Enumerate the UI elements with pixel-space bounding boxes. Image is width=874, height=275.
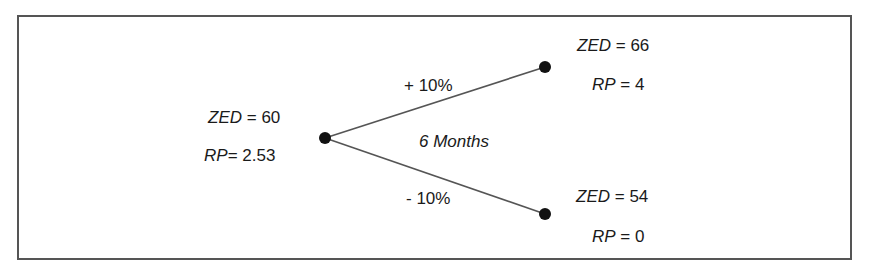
root-rp-value: 2.53 [242, 146, 275, 165]
down-rp-value: 0 [635, 227, 644, 246]
root-node [319, 132, 331, 144]
root-rp-label: RP= 2.53 [204, 147, 275, 164]
down-rp-label: RP = 0 [592, 228, 644, 245]
up-node [539, 61, 551, 73]
up-rp-label: RP = 4 [592, 76, 644, 93]
down-zed-name: ZED [576, 187, 610, 206]
up-rp-value: 4 [635, 75, 644, 94]
up-zed-name: ZED [577, 36, 611, 55]
down-rp-name: RP [592, 227, 616, 246]
period-label: 6 Months [419, 133, 489, 150]
up-edge-label: + 10% [404, 77, 453, 94]
down-zed-value: 54 [629, 187, 648, 206]
up-zed-value: 66 [630, 36, 649, 55]
up-rp-name: RP [592, 75, 616, 94]
root-zed-label: ZED = 60 [208, 109, 280, 126]
down-edge-label: - 10% [406, 190, 450, 207]
root-rp-name: RP [204, 146, 228, 165]
root-zed-value: 60 [261, 108, 280, 127]
root-zed-name: ZED [208, 108, 242, 127]
down-node [539, 208, 551, 220]
down-zed-label: ZED = 54 [576, 188, 648, 205]
up-zed-label: ZED = 66 [577, 37, 649, 54]
